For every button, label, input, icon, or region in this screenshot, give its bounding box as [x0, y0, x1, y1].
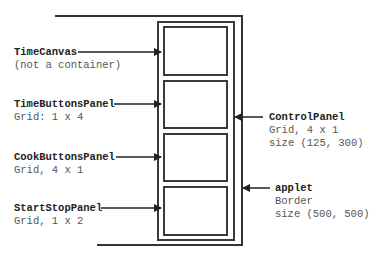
label-detail: Grid: 1 x 4 [14, 111, 115, 124]
label-detail: Grid, 4 x 1 [14, 164, 115, 177]
label-title: TimeButtonsPanel [14, 98, 115, 111]
label-title: TimeCanvas [14, 46, 121, 59]
label-title: applet [275, 182, 370, 195]
label-control-panel: ControlPanel Grid, 4 x 1 size (125, 300) [269, 111, 364, 150]
label-detail: Grid, 1 x 2 [14, 215, 102, 228]
label-start-stop-panel: StartStopPanel Grid, 1 x 2 [14, 202, 102, 228]
label-detail: size (125, 300) [269, 137, 364, 150]
label-title: CookButtonsPanel [14, 151, 115, 164]
label-applet: applet Border size (500, 500) [275, 182, 370, 221]
label-title: StartStopPanel [14, 202, 102, 215]
label-detail: (not a container) [14, 59, 121, 72]
label-time-canvas: TimeCanvas (not a container) [14, 46, 121, 72]
label-time-buttons-panel: TimeButtonsPanel Grid: 1 x 4 [14, 98, 115, 124]
label-title: ControlPanel [269, 111, 364, 124]
label-detail: size (500, 500) [275, 208, 370, 221]
label-cook-buttons-panel: CookButtonsPanel Grid, 4 x 1 [14, 151, 115, 177]
label-detail: Grid, 4 x 1 [269, 124, 364, 137]
label-detail: Border [275, 195, 370, 208]
